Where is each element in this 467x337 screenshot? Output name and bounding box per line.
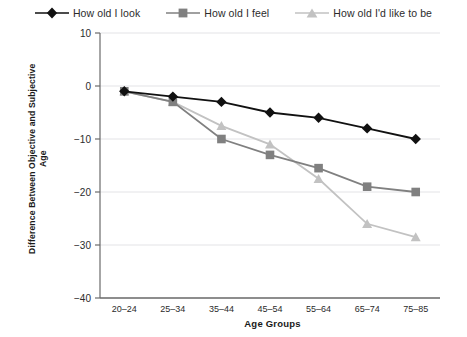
data-point-square xyxy=(217,135,226,144)
data-point-diamond xyxy=(313,113,323,123)
series-diamond xyxy=(119,86,421,144)
x-tick-label: 65–74 xyxy=(355,304,380,314)
gridlines xyxy=(100,33,440,298)
data-point-triangle xyxy=(216,121,226,130)
x-tick-label: 55–64 xyxy=(306,304,331,314)
data-point-square xyxy=(266,151,275,160)
data-series-layer xyxy=(119,86,421,241)
data-point-square xyxy=(411,188,420,197)
x-tick-label: 20–24 xyxy=(112,304,137,314)
x-tick-label: 35–44 xyxy=(209,304,234,314)
y-tick-labels: 100−10−20−30−40 xyxy=(74,28,100,304)
plot-area: 100−10−20−30−40 20–2425–3435–4445–5455–6… xyxy=(0,0,467,337)
data-point-diamond xyxy=(411,134,421,144)
data-point-square xyxy=(363,182,372,191)
data-point-diamond xyxy=(216,97,226,107)
axes xyxy=(100,33,440,298)
x-tick-labels: 20–2425–3435–4445–5455–6465–7475–85 xyxy=(112,304,428,314)
data-point-diamond xyxy=(265,107,275,117)
y-tick-label: −40 xyxy=(74,293,91,304)
y-tick-label: −20 xyxy=(74,187,91,198)
y-axis-title-line1: Difference Between Objective and Subject… xyxy=(27,64,37,254)
x-tick-label: 25–34 xyxy=(160,304,185,314)
data-point-square xyxy=(314,164,323,173)
x-tick-label: 75–85 xyxy=(403,304,428,314)
y-tick-label: −10 xyxy=(74,134,91,145)
y-axis-title: Difference Between Objective and Subject… xyxy=(27,44,48,274)
y-tick-label: 0 xyxy=(85,81,91,92)
data-point-triangle xyxy=(265,140,275,149)
y-tick-label: −30 xyxy=(74,240,91,251)
x-axis-title: Age Groups xyxy=(100,318,445,329)
y-axis-title-line2: Age xyxy=(38,150,48,167)
data-point-diamond xyxy=(362,123,372,133)
x-tick-label: 45–54 xyxy=(257,304,282,314)
y-tick-label: 10 xyxy=(80,28,92,39)
chart-container: How old I look How old I feel How old I'… xyxy=(0,0,467,337)
